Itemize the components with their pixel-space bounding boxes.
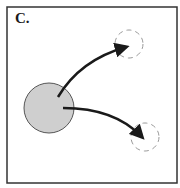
- diagram-panel: C.: [0, 0, 180, 188]
- diagram-canvas: [0, 0, 180, 188]
- panel-label: C.: [15, 10, 30, 27]
